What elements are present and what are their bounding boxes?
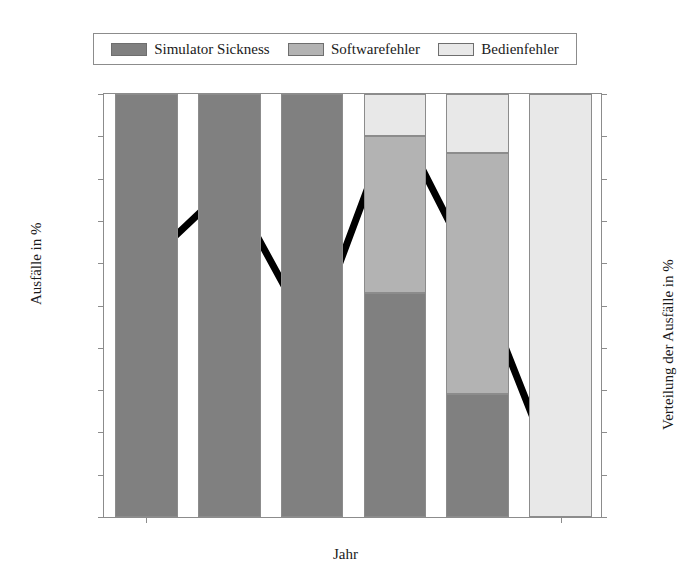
bar-2015 xyxy=(281,94,344,517)
y-axis-right-tick xyxy=(601,136,607,137)
y-axis-right-tick xyxy=(601,263,607,264)
y-axis-right-title: Verteilung der Ausfälle in % xyxy=(660,259,677,430)
bar-segment-2017-simulator-sickness xyxy=(364,293,427,517)
y-axis-right-tick xyxy=(601,348,607,349)
x-axis-tick xyxy=(561,517,562,523)
bar-segment-2013-simulator-sickness xyxy=(198,94,261,517)
x-axis-title: Jahr xyxy=(0,546,691,563)
y-axis-left-tick xyxy=(98,221,104,222)
x-axis-tick xyxy=(146,517,147,523)
legend-entry-simulator-sickness: Simulator Sickness xyxy=(111,42,269,57)
bar-segment-2022-bedienfehler xyxy=(529,94,592,517)
y-axis-right-tick xyxy=(601,179,607,180)
line-series-layer xyxy=(104,94,601,517)
y-axis-left-title: Ausfälle in % xyxy=(28,223,45,305)
legend-swatch-icon-simulator-sickness xyxy=(111,43,147,56)
legend-label-bedienfehler: Bedienfehler xyxy=(481,42,558,57)
y-axis-right-tick xyxy=(601,517,607,518)
plot-inner xyxy=(104,94,601,517)
y-axis-right-tick xyxy=(601,306,607,307)
y-axis-left-tick xyxy=(98,179,104,180)
bar-segment-2019-softwarefehler xyxy=(446,153,509,394)
y-axis-right-tick xyxy=(601,475,607,476)
y-axis-left-tick xyxy=(98,432,104,433)
bar-segment-2017-bedienfehler xyxy=(364,94,427,136)
legend-label-softwarefehler: Softwarefehler xyxy=(331,42,420,57)
bar-2019 xyxy=(446,94,509,517)
plot-area: 02468101214161820 0102030405060708090100… xyxy=(103,93,602,518)
y-axis-left-tick xyxy=(98,306,104,307)
bar-2022 xyxy=(529,94,592,517)
bar-2012 xyxy=(115,94,178,517)
y-axis-right-tick xyxy=(601,432,607,433)
bar-2017 xyxy=(364,94,427,517)
legend-swatch-icon-softwarefehler xyxy=(288,43,324,56)
bar-segment-2012-simulator-sickness xyxy=(115,94,178,517)
legend-swatch-icon-bedienfehler xyxy=(438,43,474,56)
bar-segment-2017-softwarefehler xyxy=(364,136,427,293)
legend-label-simulator-sickness: Simulator Sickness xyxy=(154,42,269,57)
y-axis-left-tick xyxy=(98,517,104,518)
y-axis-right-tick xyxy=(601,390,607,391)
bar-segment-2015-simulator-sickness xyxy=(281,94,344,517)
y-axis-left-tick xyxy=(98,348,104,349)
y-axis-left-tick xyxy=(98,475,104,476)
bar-segment-2019-bedienfehler xyxy=(446,94,509,153)
bar-2013 xyxy=(198,94,261,517)
y-axis-left-tick xyxy=(98,136,104,137)
y-axis-right-tick xyxy=(601,94,607,95)
y-axis-left-tick xyxy=(98,390,104,391)
legend-entry-softwarefehler: Softwarefehler xyxy=(288,42,420,57)
y-axis-left-tick xyxy=(98,94,104,95)
legend-entry-bedienfehler: Bedienfehler xyxy=(438,42,558,57)
chart-figure: Simulator Sickness Softwarefehler Bedien… xyxy=(0,0,691,578)
y-axis-right-tick xyxy=(601,221,607,222)
bar-segment-2019-simulator-sickness xyxy=(446,394,509,517)
chart-legend: Simulator Sickness Softwarefehler Bedien… xyxy=(93,33,577,65)
y-axis-left-tick xyxy=(98,263,104,264)
